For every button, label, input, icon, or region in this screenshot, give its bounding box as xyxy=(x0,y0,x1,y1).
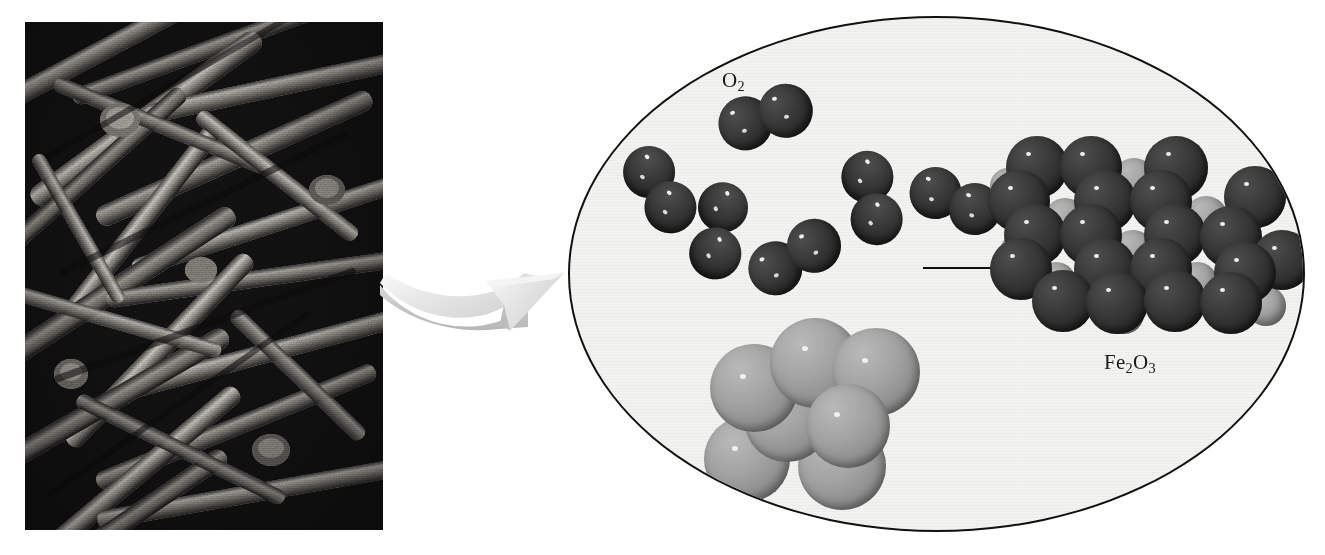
o-atom xyxy=(1200,272,1262,334)
nails-photo-graphic xyxy=(25,22,383,530)
o-atom xyxy=(1032,270,1094,332)
particle-view-ellipse: O2 Fe Fe2O3 xyxy=(568,16,1305,532)
fe2o3-lattice xyxy=(988,136,1305,351)
label-o2: O2 xyxy=(722,68,745,95)
o-atom xyxy=(1086,272,1148,334)
magnify-swoosh-arrow xyxy=(378,243,583,353)
o-atom xyxy=(1144,270,1206,332)
iron-nails-photograph xyxy=(25,22,383,530)
label-fe2o3: Fe2O3 xyxy=(1104,350,1156,377)
fe-atom xyxy=(806,384,890,468)
fe-atom-cluster xyxy=(688,318,928,493)
